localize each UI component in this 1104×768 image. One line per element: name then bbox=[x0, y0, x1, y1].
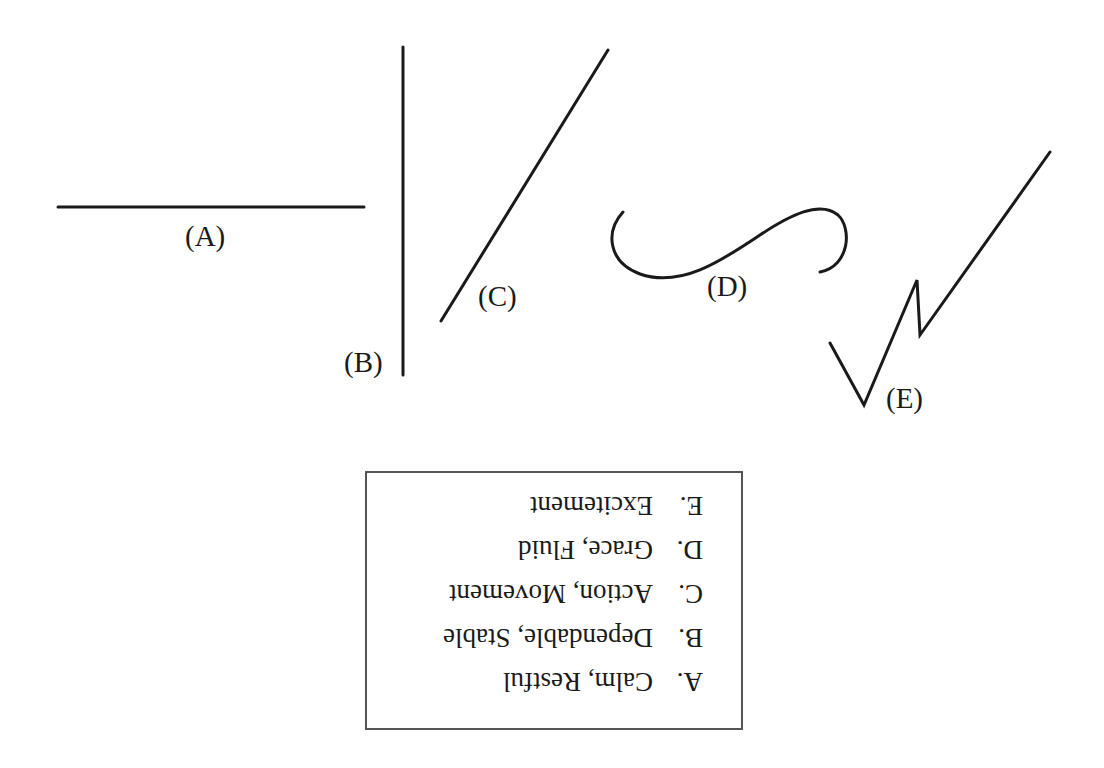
legend-item: D.Grace, Fluid bbox=[443, 528, 703, 572]
label-b: (B) bbox=[344, 348, 383, 377]
legend-list: A.Calm, Restful B.Dependable, Stable C.A… bbox=[443, 484, 703, 704]
line-d-curve bbox=[612, 209, 846, 278]
label-e: (E) bbox=[886, 384, 923, 413]
legend-rotated: A.Calm, Restful B.Dependable, Stable C.A… bbox=[367, 473, 741, 728]
legend-item: C.Action, Movement bbox=[443, 572, 703, 616]
label-d: (D) bbox=[707, 272, 747, 301]
label-c: (C) bbox=[478, 282, 517, 311]
label-a: (A) bbox=[185, 222, 225, 251]
line-e-zigzag bbox=[830, 152, 1050, 405]
legend-item: B.Dependable, Stable bbox=[443, 616, 703, 660]
line-c-diagonal bbox=[441, 50, 608, 321]
legend-item: E.Excitement bbox=[443, 484, 703, 528]
legend-item: A.Calm, Restful bbox=[443, 660, 703, 704]
legend-box: A.Calm, Restful B.Dependable, Stable C.A… bbox=[365, 471, 743, 730]
